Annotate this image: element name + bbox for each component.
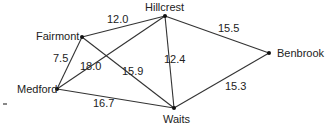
node-label-waits: Waits bbox=[163, 114, 190, 125]
edge-weight-hillcrest-waits: 12.4 bbox=[164, 54, 185, 65]
edge-medford-hillcrest bbox=[57, 16, 165, 89]
edge-waits-benbrook bbox=[174, 53, 269, 108]
edge-weight-fairmont-waits: 15.9 bbox=[122, 66, 143, 77]
node-label-medford: Medford bbox=[17, 84, 57, 95]
edge-hillcrest-benbrook bbox=[165, 16, 269, 53]
graph-canvas bbox=[0, 0, 331, 131]
node-waits bbox=[172, 106, 176, 110]
edge-medford-waits bbox=[57, 89, 174, 108]
node-label-hillcrest: Hillcrest bbox=[145, 2, 184, 13]
node-benbrook bbox=[267, 51, 271, 55]
edge-weight-fairmont-medford: 7.5 bbox=[53, 53, 68, 64]
edge-weight-waits-benbrook: 15.3 bbox=[225, 81, 246, 92]
node-label-fairmont: Fairmont bbox=[36, 31, 79, 42]
node-fairmont bbox=[80, 35, 84, 39]
edge-weight-hillcrest-benbrook: 15.5 bbox=[218, 23, 239, 34]
node-hillcrest bbox=[163, 14, 167, 18]
node-label-benbrook: Benbrook bbox=[277, 48, 324, 59]
edge-weight-medford-waits: 16.7 bbox=[93, 98, 114, 109]
stray-mark bbox=[3, 103, 7, 105]
edge-weight-medford-hillcrest: 18.0 bbox=[80, 61, 101, 72]
edge-weight-fairmont-hillcrest: 12.0 bbox=[107, 14, 128, 25]
